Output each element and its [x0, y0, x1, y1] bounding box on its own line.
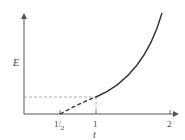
- curve-dashed-segment: [60, 97, 96, 114]
- x-tick-label-1: 1: [93, 119, 98, 129]
- curve-solid-segment: [96, 13, 162, 97]
- x-axis-label: t: [93, 129, 96, 140]
- x-tick-label-2: 2: [167, 119, 172, 129]
- x-tick-label-half: 1/2: [54, 119, 65, 132]
- graph: E 1/2 1 2 t: [0, 0, 185, 140]
- x-tick-label-half-den: 2: [61, 124, 65, 132]
- y-axis-label: E: [12, 57, 19, 68]
